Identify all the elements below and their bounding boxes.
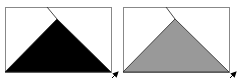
black-triangle-panel xyxy=(5,7,118,78)
arrow-icon xyxy=(112,72,118,78)
gray-triangle-panel xyxy=(123,7,236,78)
diagram-canvas xyxy=(0,0,241,82)
arrow-icon xyxy=(230,72,236,78)
